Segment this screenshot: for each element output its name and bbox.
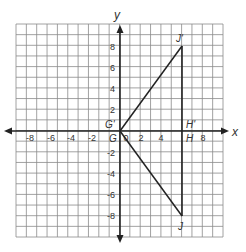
y-axis-label: y bbox=[113, 8, 121, 22]
y-tick-label: -8 bbox=[107, 211, 115, 221]
point-label-j-prime: J' bbox=[175, 33, 184, 44]
y-tick-label: 4 bbox=[110, 84, 115, 94]
y-tick-label: 8 bbox=[110, 42, 115, 52]
y-tick-label: 6 bbox=[110, 63, 115, 73]
x-tick-label: -2 bbox=[88, 133, 96, 143]
point-label-g-prime: G' bbox=[105, 119, 116, 130]
point-label-h-prime: H' bbox=[186, 119, 196, 130]
point-label-h: H bbox=[186, 133, 194, 144]
y-tick-label: -2 bbox=[107, 148, 115, 158]
coordinate-plane-svg: x y -8 -6 -4 -2 0 2 4 8 8 6 4 2 -2 -4 -6… bbox=[0, 0, 246, 252]
x-axis-label: x bbox=[231, 125, 239, 139]
point-label-j: J bbox=[177, 221, 184, 232]
x-tick-label: -8 bbox=[26, 133, 34, 143]
coordinate-plane: x y -8 -6 -4 -2 0 2 4 8 8 6 4 2 -2 -4 -6… bbox=[0, 0, 246, 252]
y-axis-up-arrow-icon bbox=[117, 25, 124, 33]
segment-g-prime-j-prime bbox=[120, 46, 182, 131]
axes: x y bbox=[4, 8, 239, 243]
x-tick-label: -4 bbox=[67, 133, 75, 143]
y-tick-label: -6 bbox=[107, 190, 115, 200]
y-tick-label: 2 bbox=[110, 105, 115, 115]
x-tick-label: 4 bbox=[158, 133, 163, 143]
x-tick-label: -6 bbox=[47, 133, 55, 143]
x-axis-right-arrow-icon bbox=[221, 128, 229, 135]
x-tick-label: 2 bbox=[138, 133, 143, 143]
y-tick-label: -4 bbox=[107, 169, 115, 179]
point-label-g: G bbox=[109, 133, 117, 144]
x-axis-left-arrow-icon bbox=[4, 128, 12, 135]
x-tick-label: 8 bbox=[200, 133, 205, 143]
y-axis-down-arrow-icon bbox=[117, 235, 124, 243]
